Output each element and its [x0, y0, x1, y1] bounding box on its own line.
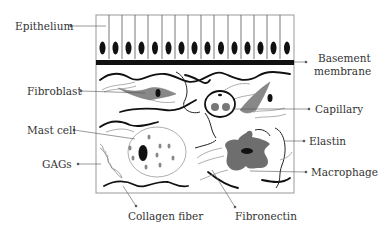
mast-cell — [128, 127, 186, 177]
capillary — [205, 91, 235, 117]
basement-membrane — [96, 60, 294, 65]
label-basement-membrane-1: Basement — [318, 52, 371, 64]
label-fibronectin: Fibronectin — [235, 210, 297, 222]
label-collagen-fiber: Collagen fiber — [128, 210, 203, 222]
label-fibroblast: Fibroblast — [27, 85, 82, 97]
label-capillary: Capillary — [315, 103, 363, 115]
ecm-diagram — [0, 0, 383, 231]
label-mast-cell: Mast cell — [27, 124, 76, 136]
label-gags: GAGs — [42, 158, 72, 170]
epithelium-nuclei — [100, 42, 291, 55]
label-elastin: Elastin — [309, 135, 346, 147]
label-macrophage: Macrophage — [311, 166, 378, 178]
label-basement-membrane-2: membrane — [314, 65, 371, 77]
label-epithelium: Epithelium — [15, 20, 73, 32]
